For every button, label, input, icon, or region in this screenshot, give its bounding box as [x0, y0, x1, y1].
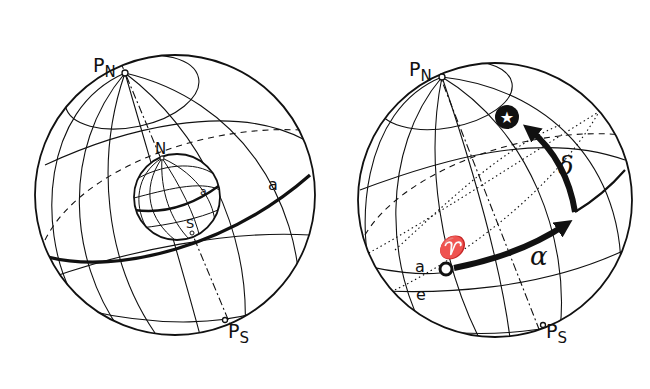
left-pn-label: PN — [93, 54, 116, 81]
celestial-equator-label-right: a — [415, 257, 425, 276]
right-ps-label: PS — [546, 320, 567, 347]
earth-south-label: S — [186, 216, 194, 231]
vernal-equinox-marker — [440, 263, 452, 275]
earth-globe — [134, 154, 220, 240]
right-ascension-arrow — [454, 225, 565, 268]
ecliptic-label: e — [416, 285, 426, 304]
right-pn-label: PN — [409, 58, 432, 85]
earth-equator-label: a — [200, 185, 207, 198]
declination-label: δ — [558, 151, 574, 181]
celestial-sphere-diagrams: PN PS N S a a — [0, 0, 650, 389]
south-celestial-pole-marker — [223, 318, 228, 323]
north-celestial-pole-marker — [122, 70, 128, 76]
right-ascension-label: α — [530, 241, 548, 271]
left-celestial-sphere — [35, 32, 315, 360]
star-icon: ★ — [500, 108, 514, 127]
left-ps-label: PS — [228, 320, 249, 347]
earth-north-label: N — [155, 140, 166, 158]
right-celestial-sphere — [358, 25, 632, 370]
celestial-equator-label-left: a — [268, 175, 278, 194]
vernal-equinox-label: ♈ — [437, 235, 469, 260]
